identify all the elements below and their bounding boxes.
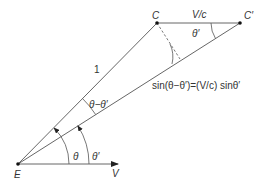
label-theta-prime-top: θ′ <box>192 28 200 39</box>
line-E-C <box>18 23 157 164</box>
label-C-prime: C′ <box>244 10 254 21</box>
line-E-C-prime <box>18 23 240 164</box>
label-equation: sin(θ−θ′)=(V/c) sinθ′ <box>152 80 240 91</box>
point-C <box>155 21 159 25</box>
perpendicular-dashed-line <box>157 23 180 59</box>
label-E: E <box>14 169 21 180</box>
label-C: C <box>152 10 160 21</box>
label-theta: θ <box>73 151 79 162</box>
angle-arc-theta-prime-at-C-prime <box>211 23 216 39</box>
aberration-diagram: E C C′ V V/c 1 θ θ′ θ′ θ−θ′ sin(θ−θ′)=(V… <box>0 0 266 188</box>
label-theta-minus-theta-prime: θ−θ′ <box>89 99 109 110</box>
point-E <box>16 162 20 166</box>
label-theta-prime-bottom: θ′ <box>92 151 100 162</box>
label-one: 1 <box>94 64 100 75</box>
angle-arc-theta-prime <box>78 126 89 164</box>
point-C-prime <box>238 21 242 25</box>
label-V-over-c: V/c <box>192 9 206 20</box>
label-V: V <box>112 168 120 179</box>
angle-arc-theta <box>54 128 69 164</box>
